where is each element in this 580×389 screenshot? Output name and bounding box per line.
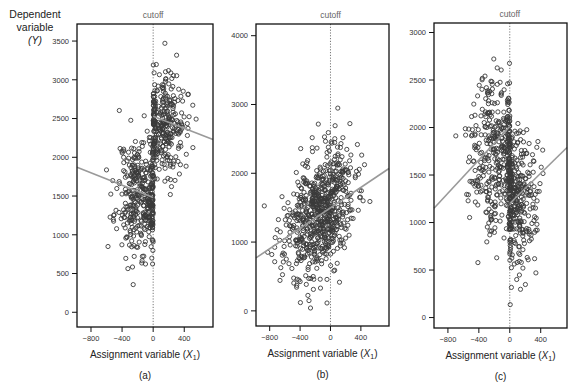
data-point [117, 108, 121, 112]
data-point [175, 53, 179, 57]
data-point [318, 253, 322, 257]
data-point [187, 115, 191, 119]
data-point [318, 277, 322, 281]
x-tick-label: 400 [534, 335, 547, 344]
data-point [485, 225, 489, 229]
data-point [484, 165, 488, 169]
y-tick-label: 2000 [52, 153, 69, 162]
data-point [508, 303, 512, 307]
x-axis-title-text: Assignment variable ( [267, 348, 364, 359]
data-point [316, 122, 320, 126]
data-point [495, 66, 499, 70]
data-point [184, 164, 188, 168]
data-point [154, 62, 158, 66]
data-point [500, 213, 504, 217]
data-point [126, 267, 130, 271]
data-point [163, 179, 167, 183]
x-tick-label: −800 [261, 333, 278, 342]
data-point [528, 163, 532, 167]
panel-label: (a) [139, 370, 151, 381]
data-point [521, 266, 525, 270]
figure-panels: cutoff0500100015002000250030003500−800−4… [0, 0, 580, 389]
data-point [476, 261, 480, 265]
data-point [150, 256, 154, 260]
y-tick-label: 0 [65, 308, 69, 317]
data-point [349, 153, 353, 157]
data-point [287, 262, 291, 266]
y-tick-label: 1000 [52, 231, 69, 240]
data-point [348, 166, 352, 170]
data-point [177, 172, 181, 176]
data-point [182, 115, 186, 119]
data-point [499, 202, 503, 206]
data-point [322, 135, 326, 139]
data-point [360, 153, 364, 157]
data-point [145, 129, 149, 133]
data-point [177, 87, 181, 91]
data-point [149, 245, 153, 249]
data-point [143, 242, 147, 246]
x-tick-label: −400 [292, 333, 309, 342]
data-point [532, 185, 536, 189]
data-point [114, 208, 118, 212]
data-point [133, 139, 137, 143]
x-tick-label: 0 [328, 333, 332, 342]
data-point [106, 244, 110, 248]
data-point [495, 101, 499, 105]
data-point [521, 140, 525, 144]
data-point [348, 159, 352, 163]
data-point [288, 208, 292, 212]
panel-a: cutoff0500100015002000250030003500−800−4… [52, 10, 213, 381]
data-point [496, 110, 500, 114]
data-point [535, 145, 539, 149]
data-point [518, 287, 522, 291]
x-axis-title: Assignment variable (X1) [267, 348, 377, 360]
y-tick-label: 1000 [231, 238, 248, 247]
data-point [304, 282, 308, 286]
data-point [126, 150, 130, 154]
y-tick-label: 4000 [231, 31, 248, 40]
data-point [325, 277, 329, 281]
data-point [325, 155, 329, 159]
data-point [335, 246, 339, 250]
data-point [531, 170, 535, 174]
data-point [298, 301, 302, 305]
x-axis-title-close: ) [374, 348, 377, 359]
y-tick-label: 500 [56, 269, 69, 278]
data-point [310, 136, 314, 140]
data-point [337, 280, 341, 284]
data-point [480, 87, 484, 91]
y-tick-label: 2000 [409, 123, 426, 132]
data-point [286, 201, 290, 205]
data-point [517, 273, 521, 277]
data-point [495, 256, 499, 260]
data-point [180, 111, 184, 115]
data-point [163, 41, 167, 45]
scatter-points [262, 106, 372, 310]
cutoff-label: cutoff [320, 10, 341, 20]
data-point [499, 196, 503, 200]
data-point [527, 174, 531, 178]
data-point [349, 198, 353, 202]
data-point [299, 147, 303, 151]
data-point [275, 228, 279, 232]
data-point [109, 192, 113, 196]
data-point [516, 121, 520, 125]
data-point [333, 124, 337, 128]
data-point [477, 83, 481, 87]
y-tick-label: 1500 [52, 192, 69, 201]
data-point [308, 306, 312, 310]
data-point [173, 178, 177, 182]
data-point [481, 174, 485, 178]
data-point [273, 236, 277, 240]
data-point [120, 243, 124, 247]
data-point [262, 204, 266, 208]
y-tick-label: 0 [422, 313, 426, 322]
y-tick-label: 2500 [409, 76, 426, 85]
data-point [345, 147, 349, 151]
x-tick-label: 400 [178, 334, 191, 343]
x-tick-label: −400 [470, 335, 487, 344]
data-point [151, 262, 155, 266]
data-point [276, 218, 280, 222]
data-point [482, 121, 486, 125]
